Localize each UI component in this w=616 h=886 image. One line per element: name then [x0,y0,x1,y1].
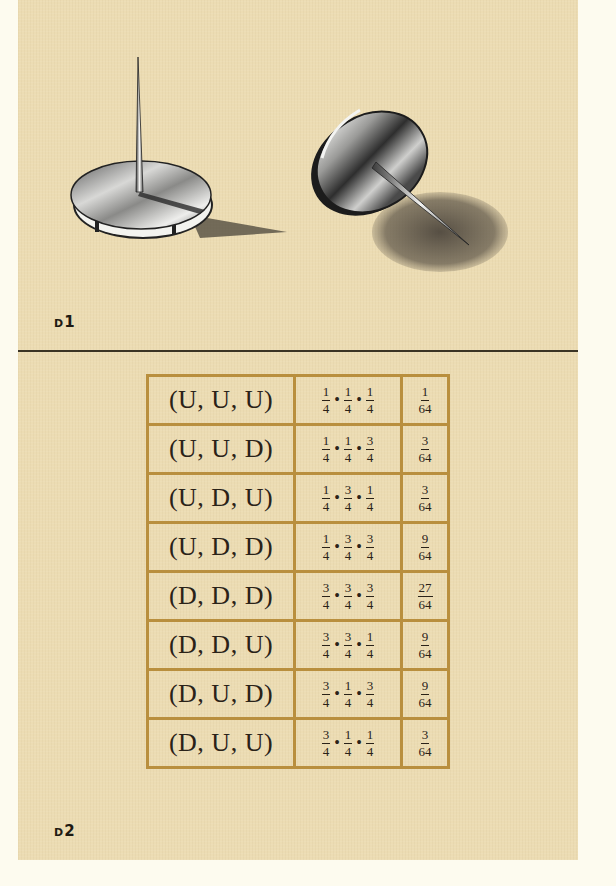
numerator: 3 [366,679,375,695]
numerator: 3 [421,483,430,499]
fraction: 34 [366,532,375,563]
probability-cell: 964 [402,621,449,670]
fraction: 14 [344,385,353,416]
numerator: 1 [366,630,375,646]
denominator: 4 [367,597,374,612]
probability-cell: 2764 [402,572,449,621]
denominator: 4 [323,695,330,710]
denominator: 64 [419,548,432,563]
fraction: 364 [419,434,432,465]
probability-cell: 964 [402,523,449,572]
numerator: 1 [322,385,331,401]
denominator: 64 [419,744,432,759]
fraction: 34 [344,581,353,612]
numerator: 1 [366,728,375,744]
label-prefix: D [54,826,64,839]
fraction: 14 [322,385,331,416]
label-prefix: D [54,317,64,330]
table-row: (U, D, U)14•34•14364 [148,474,449,523]
multiply-dot-icon: • [334,391,340,409]
denominator: 4 [367,695,374,710]
multiply-dot-icon: • [356,685,362,703]
denominator: 4 [345,499,352,514]
denominator: 4 [345,548,352,563]
denominator: 64 [419,646,432,661]
numerator: 3 [322,728,331,744]
fraction: 964 [419,679,432,710]
numerator: 1 [322,532,331,548]
table-row: (U, U, U)14•14•14164 [148,376,449,425]
multiply-dot-icon: • [356,489,362,507]
numerator: 1 [366,483,375,499]
fraction: 14 [322,434,331,465]
multiply-dot-icon: • [356,391,362,409]
numerator: 1 [322,434,331,450]
outcome-cell: (D, U, D) [148,670,295,719]
table-row: (D, U, D)34•14•34964 [148,670,449,719]
fraction: 34 [366,581,375,612]
numerator: 1 [322,483,331,499]
denominator: 64 [419,695,432,710]
denominator: 4 [323,744,330,759]
probability-cell: 364 [402,474,449,523]
multiply-dot-icon: • [356,636,362,654]
numerator: 3 [344,630,353,646]
figure-label-d2: D2 [54,822,76,840]
numerator: 3 [421,434,430,450]
fraction: 964 [419,630,432,661]
denominator: 4 [345,744,352,759]
product-cell: 34•34•34 [295,572,402,621]
table-row: (U, D, D)14•34•34964 [148,523,449,572]
denominator: 4 [367,548,374,563]
denominator: 4 [345,401,352,416]
numerator: 1 [366,385,375,401]
table-row: (U, U, D)14•14•34364 [148,425,449,474]
denominator: 4 [345,646,352,661]
denominator: 4 [367,450,374,465]
product-cell: 34•14•34 [295,670,402,719]
fraction: 34 [344,483,353,514]
multiply-dot-icon: • [356,440,362,458]
probability-cell: 164 [402,376,449,425]
product-cell: 34•34•14 [295,621,402,670]
section-divider [18,350,578,352]
outcome-cell: (U, U, D) [148,425,295,474]
multiply-dot-icon: • [356,538,362,556]
denominator: 4 [345,695,352,710]
thumbtack-point-up [71,57,287,239]
denominator: 4 [323,499,330,514]
probability-cell: 964 [402,670,449,719]
denominator: 64 [419,597,432,612]
probability-cell: 364 [402,719,449,768]
fraction: 34 [322,728,331,759]
denominator: 64 [419,401,432,416]
fraction: 34 [366,679,375,710]
numerator: 3 [344,532,353,548]
multiply-dot-icon: • [334,636,340,654]
multiply-dot-icon: • [334,587,340,605]
numerator: 1 [421,385,430,401]
outcome-probability-table: (U, U, U)14•14•14164(U, U, D)14•14•34364… [146,374,450,769]
denominator: 64 [419,499,432,514]
table-row: (D, U, U)34•14•14364 [148,719,449,768]
figure-label-d1: D1 [54,313,76,331]
label-number: 2 [64,822,75,840]
numerator: 1 [344,434,353,450]
outcome-cell: (U, D, D) [148,523,295,572]
multiply-dot-icon: • [334,734,340,752]
fraction: 14 [366,385,375,416]
fraction: 34 [322,581,331,612]
fraction: 964 [419,532,432,563]
fraction: 14 [344,679,353,710]
numerator: 3 [366,581,375,597]
denominator: 4 [323,548,330,563]
outcome-cell: (U, D, U) [148,474,295,523]
fraction: 14 [322,483,331,514]
denominator: 4 [345,450,352,465]
fraction: 14 [366,728,375,759]
numerator: 3 [322,630,331,646]
denominator: 4 [323,597,330,612]
denominator: 4 [323,646,330,661]
fraction: 364 [419,728,432,759]
numerator: 3 [344,483,353,499]
